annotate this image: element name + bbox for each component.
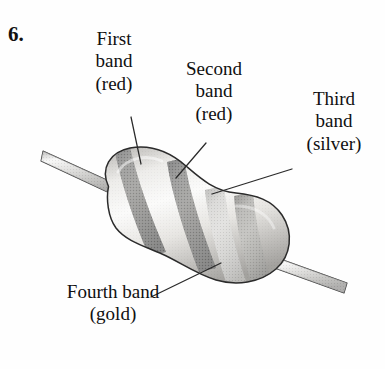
question-number: 6. [8,24,24,45]
label-second-band-line-1: Second [158,58,270,80]
label-first-band: First band (red) [62,28,166,95]
label-third-band-line-1: Third [284,88,384,110]
label-second-band: Second band (red) [158,58,270,125]
label-third-band: Third band (silver) [284,88,384,155]
label-first-band-line-3: (red) [62,73,166,95]
label-third-band-line-3: (silver) [284,133,384,155]
label-second-band-line-2: band [158,80,270,102]
label-second-band-line-3: (red) [158,103,270,125]
label-third-band-line-2: band [284,110,384,132]
label-first-band-line-1: First [62,28,166,50]
label-first-band-line-2: band [62,50,166,72]
label-fourth-band-line-2: (gold) [18,303,208,325]
label-fourth-band-line-1: Fourth band [18,281,208,303]
figure-page: 6. First band (red) Second band (red) Th… [0,0,385,369]
label-fourth-band: Fourth band (gold) [18,281,208,326]
